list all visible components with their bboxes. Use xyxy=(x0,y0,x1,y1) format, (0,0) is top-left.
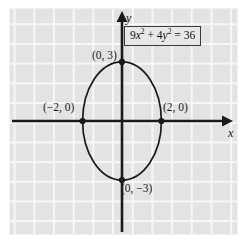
equation-plus: + xyxy=(145,29,157,41)
point-label-bottom: (0, −3) xyxy=(121,183,152,195)
point-label-top: (0, 3) xyxy=(92,50,117,62)
ellipse-graph-figure: y x (0, 3) (−2, 0) (2, 0) (0, −3) 9x2 + … xyxy=(0,0,246,242)
equation-callout-box: 9x2 + 4y2 = 36 xyxy=(124,26,201,46)
equation-rhs: 36 xyxy=(184,29,196,41)
point-label-left: (−2, 0) xyxy=(43,102,74,114)
x-axis-label: x xyxy=(228,127,233,139)
point-label-right: (2, 0) xyxy=(163,102,188,114)
equation-equals: = xyxy=(171,29,183,41)
y-axis-label: y xyxy=(126,12,131,24)
